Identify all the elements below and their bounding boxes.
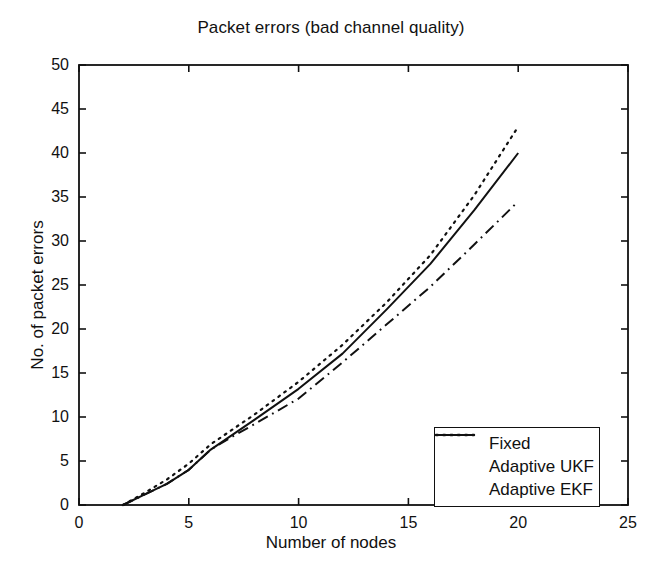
y-tick-label: 20 (19, 320, 69, 338)
legend-label: Adaptive UKF (489, 458, 594, 475)
y-tick-label: 10 (19, 408, 69, 426)
legend-label: Fixed (489, 435, 531, 452)
legend-swatch-dash-dot-icon (442, 460, 482, 474)
x-tick-label: 25 (619, 514, 637, 532)
x-tick-label: 5 (184, 514, 193, 532)
y-tick-label: 5 (19, 452, 69, 470)
chart-figure: Packet errors (bad channel quality) No. … (0, 0, 662, 570)
y-tick-label: 25 (19, 276, 69, 294)
x-tick-label: 0 (75, 514, 84, 532)
legend-label: Adaptive EKF (489, 481, 593, 498)
legend-item-adaptive-ekf[interactable]: Adaptive EKF (442, 478, 590, 501)
y-tick-label: 30 (19, 232, 69, 250)
y-tick-label: 15 (19, 364, 69, 382)
y-tick-label: 35 (19, 188, 69, 206)
y-tick-label: 45 (19, 100, 69, 118)
legend-item-adaptive-ukf[interactable]: Adaptive UKF (442, 455, 590, 478)
chart-legend: FixedAdaptive UKFAdaptive EKF (434, 427, 600, 507)
x-tick-label: 20 (509, 514, 527, 532)
legend-swatch-solid-icon (442, 483, 482, 497)
y-tick-label: 50 (19, 56, 69, 74)
y-tick-label: 0 (19, 496, 69, 514)
x-tick-label: 10 (290, 514, 308, 532)
y-tick-label: 40 (19, 144, 69, 162)
x-tick-label: 15 (399, 514, 417, 532)
